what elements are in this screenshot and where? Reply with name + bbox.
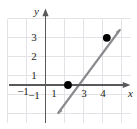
y-axis-label: y — [34, 6, 39, 17]
x-axis-label: x — [128, 88, 133, 99]
x-tick-label-neg1: −1 — [14, 86, 32, 97]
coordinate-plane-figure: y x 3 2 1 −1 −1 1 3 4 — [0, 0, 137, 129]
plotted-line — [58, 28, 121, 114]
x-tick-label-3: 3 — [77, 88, 91, 99]
y-axis — [42, 9, 48, 123]
data-points — [64, 34, 111, 89]
data-point-2-0 — [64, 81, 72, 89]
y-axis-arrowhead — [42, 9, 48, 17]
grid-lines — [8, 19, 131, 123]
x-tick-label-1: 1 — [47, 88, 61, 99]
y-tick-label-2: 2 — [27, 51, 41, 62]
x-tick-label-4: 4 — [96, 88, 110, 99]
data-point-4-3 — [103, 34, 111, 42]
graph-canvas — [0, 0, 137, 129]
y-tick-label-3: 3 — [27, 32, 41, 43]
y-tick-label-1: 1 — [27, 70, 41, 81]
